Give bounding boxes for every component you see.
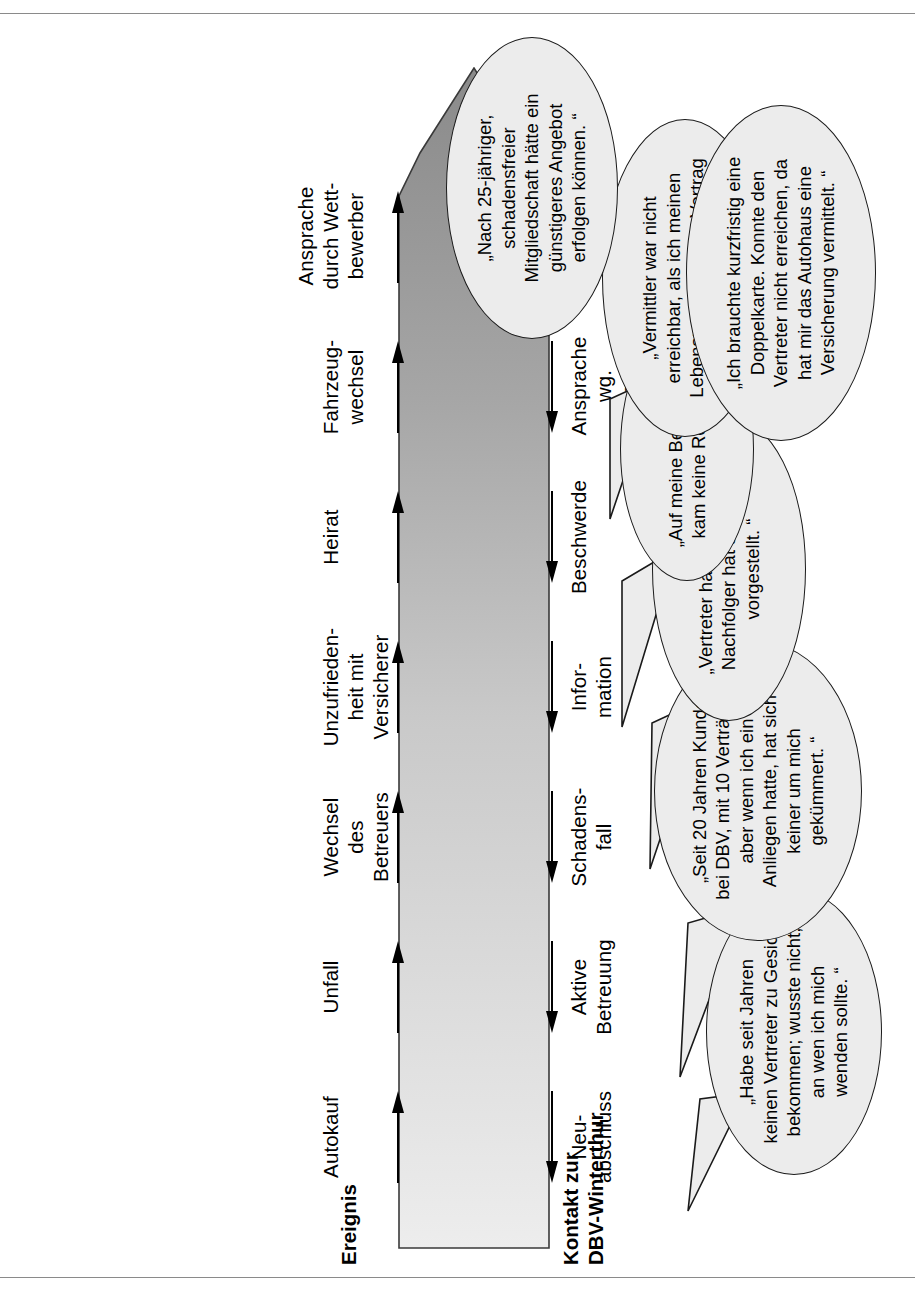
connector-contact-2 [545, 791, 559, 883]
connector-contact-0 [545, 1091, 559, 1183]
event-label-1: Unfall [318, 927, 343, 1047]
connector-event-6 [391, 191, 405, 283]
contact-label-0: Neu- abschluss [566, 1077, 616, 1197]
quote-bubble-6: „Nach 25-jähriger, schadensfreier Mitgli… [446, 37, 618, 339]
bottom-divider [0, 1277, 915, 1278]
connector-event-4 [391, 491, 405, 583]
quote-bubble-5: „Ich brauchte kurzfristig eine Doppelkar… [686, 105, 876, 441]
top-divider [0, 13, 915, 14]
event-label-0: Autokauf [318, 1077, 343, 1197]
event-label-5: Fahrzeug- wechsel [318, 327, 368, 447]
diagram-canvas: Ereignis Kontakt zur DBV-Winterthur Auto… [18, 21, 898, 1271]
connector-event-0 [391, 1091, 405, 1183]
contact-label-1: Aktive Betreuung [566, 927, 616, 1047]
event-label-3: Unzufrieden- heit mit Versicherer [318, 619, 393, 755]
event-label-2: Wechsel des Betreuers [318, 777, 393, 897]
figure-page: Ereignis Kontakt zur DBV-Winterthur Auto… [0, 0, 915, 1292]
connector-event-5 [391, 341, 405, 433]
contact-label-2: Schadens- fall [566, 777, 616, 897]
connector-event-1 [391, 941, 405, 1033]
connector-contact-1 [545, 941, 559, 1033]
connector-contact-5 [545, 341, 559, 433]
connector-contact-4 [545, 491, 559, 583]
event-label-6: Ansprache durch Wett- bewerber [293, 169, 368, 303]
contact-label-3: Infor- mation [566, 627, 616, 747]
contact-label-4: Beschwerde [566, 469, 591, 605]
event-label-4: Heirat [318, 477, 343, 597]
connector-contact-3 [545, 641, 559, 733]
